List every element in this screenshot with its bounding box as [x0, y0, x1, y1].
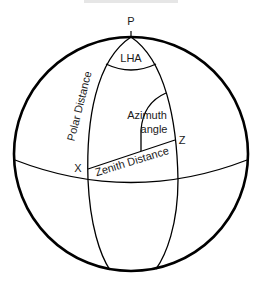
body-label: X	[74, 162, 82, 174]
zenith-distance-label: Zenith Distance	[94, 144, 171, 178]
pole-label: P	[127, 15, 134, 27]
azimuth-label-line2: angle	[141, 123, 168, 135]
azimuth-arc	[141, 93, 166, 151]
azimuth-label-line1: Azimuth	[127, 109, 167, 121]
celestial-sphere-diagram: P LHA Polar Distance Azimuth angle Z X Z…	[0, 0, 265, 286]
left-meridian	[88, 37, 131, 270]
zenith-label: Z	[179, 134, 186, 146]
lha-arc	[106, 64, 156, 70]
lha-label: LHA	[120, 52, 142, 64]
top-caption-fragment	[84, 0, 178, 3]
